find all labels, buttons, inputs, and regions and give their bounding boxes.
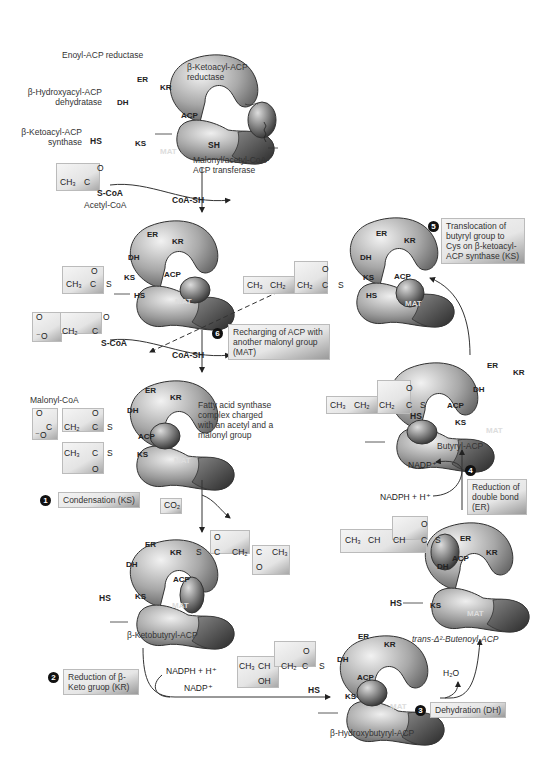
domain-er: ER (460, 534, 471, 543)
domain-dh: DH (126, 560, 138, 569)
o: O (92, 464, 99, 474)
o: O (36, 408, 43, 418)
o: O (91, 266, 98, 276)
ch2: CH₂ (281, 661, 297, 671)
c: C (406, 400, 412, 410)
acetyl-s-coa: S-CoA (97, 188, 123, 198)
acetyl-c: C (84, 177, 90, 187)
step-6-marker: 6 (212, 328, 223, 339)
c: C (214, 547, 220, 557)
hydroxybutyryl-acp-label: β-Hydroxybutyryl-ACP (330, 728, 414, 738)
domain-er: ER (147, 230, 158, 239)
label-ketoacyl-acp-synthase: β-Ketoacyl-ACP synthase (20, 127, 82, 147)
ketobutyryl-acp-label: β-Ketobutyryl-ACP (127, 630, 198, 640)
s: S (106, 279, 112, 289)
o-minus: ⁻O (36, 331, 48, 341)
c: C (256, 547, 262, 557)
ch3: CH₃ (64, 448, 80, 458)
charged-complex-note: Fatty acid synthase complex charged with… (198, 400, 278, 440)
s: S (319, 661, 325, 671)
domain-dh: DH (117, 98, 129, 107)
o: O (256, 562, 263, 572)
step-1-label: Condensation (KS) (58, 492, 140, 508)
o: O (322, 264, 329, 274)
co2: CO₂ (164, 500, 180, 510)
nadph: NADPH + H⁺ (380, 492, 431, 502)
butenoyl-acp-label: trans-Δ²-Butenoyl-ACP (412, 634, 498, 644)
c: C (90, 279, 96, 289)
step-5-label: Translocation of butyryl group to Cys on… (441, 218, 525, 264)
domain-mat: MAT (467, 609, 484, 618)
ch: CH (368, 535, 380, 545)
hs: HS (99, 593, 111, 603)
domain-acp: ACP (357, 673, 374, 682)
domain-acp: ACP (394, 272, 411, 281)
s: S (435, 535, 441, 545)
c: C (92, 326, 98, 336)
label-hydroxyacyl-acp-dehydratase: β-Hydroxyacyl-ACP dehydratase (10, 87, 102, 107)
o: O (103, 312, 110, 322)
acetyl-ch3: CH₃ (60, 177, 76, 187)
domain-er: ER (487, 361, 498, 370)
domain-kr: KR (170, 393, 182, 402)
domain-er: ER (145, 386, 156, 395)
o-minus: ⁻O (35, 430, 47, 440)
oh: OH (258, 676, 271, 686)
domain-dh: DH (127, 406, 139, 415)
domain-acp: ACP (173, 575, 190, 584)
hs: HS (410, 411, 422, 421)
s: S (338, 280, 344, 290)
domain-ks: KS (124, 273, 135, 282)
hs: HS (390, 598, 402, 608)
o: O (421, 519, 428, 529)
domain-mat: MAT (175, 297, 192, 306)
ch3: CH₃ (272, 547, 288, 557)
domain-ks: KS (430, 601, 441, 610)
ch2: CH₂ (379, 400, 395, 410)
label-mat-transferase: Malonyl/acetyl-CoA-ACP transferase (193, 155, 281, 175)
ch2: CH₂ (270, 280, 286, 290)
step-1-marker: 1 (40, 495, 51, 506)
coa-sh-product-1: CoA-SH (172, 195, 204, 205)
ch3: CH₃ (345, 535, 361, 545)
domain-er: ER (358, 632, 369, 641)
ch3: CH₃ (66, 279, 82, 289)
ch3: CH₃ (247, 280, 263, 290)
domain-er: ER (145, 540, 156, 549)
domain-ks: KS (455, 418, 466, 427)
domain-mat: MAT (390, 702, 407, 711)
domain-dh: DH (337, 655, 349, 664)
domain-ks: KS (135, 592, 146, 601)
o: O (92, 408, 99, 418)
domain-kr: KR (384, 640, 396, 649)
ch2: CH₂ (297, 280, 313, 290)
ch: CH (393, 535, 405, 545)
o: O (36, 312, 43, 322)
domain-dh: DH (473, 385, 485, 394)
c: C (421, 535, 427, 545)
domain-hs: HS (366, 291, 377, 300)
step-3-marker: 3 (415, 705, 426, 716)
domain-dh: DH (437, 562, 449, 571)
h2o: H₂O (443, 668, 459, 678)
domain-acp: ACP (138, 432, 155, 441)
o: O (303, 646, 310, 656)
o: O (406, 383, 413, 393)
step-5-marker: 5 (428, 221, 439, 232)
domain-kr: KR (160, 83, 172, 92)
label-ketoacyl-acp-reductase: β-Ketoacyl-ACP reductase (187, 62, 277, 82)
domain-ks: KS (137, 450, 148, 459)
domain-acp: ACP (447, 401, 464, 410)
domain-ks: KS (345, 692, 356, 701)
step-3-label: Dehydration (DH) (430, 702, 506, 718)
domain-ks: KS (135, 139, 146, 148)
c: C (302, 661, 308, 671)
domain-kr: KR (486, 548, 498, 557)
nadp: NADP⁺ (184, 683, 213, 693)
nadph: NADPH + H⁺ (166, 666, 217, 676)
s: S (196, 547, 202, 557)
thiol-sh-acp: SH (208, 140, 220, 150)
step-6-label: Recharging of ACP with another malonyl g… (228, 324, 330, 360)
domain-kr: KR (172, 237, 184, 246)
ch3: CH₃ (239, 661, 255, 671)
